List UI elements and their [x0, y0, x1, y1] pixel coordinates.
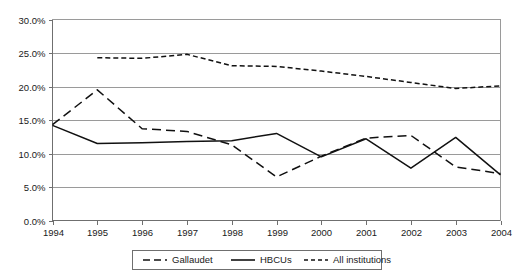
- y-axis-tick-label: 20.0%: [19, 82, 46, 93]
- x-tick-marks: [54, 221, 502, 225]
- chart-canvas: 0.0%5.0%10.0%15.0%20.0%25.0%30.0% 199419…: [0, 0, 513, 278]
- y-axis-tick-label: 5.0%: [24, 182, 46, 193]
- y-axis-tick-label: 25.0%: [19, 48, 46, 59]
- x-axis-tick-label: 2003: [446, 227, 467, 238]
- x-axis-tick-label: 2001: [356, 227, 377, 238]
- x-axis-tick-label: 1999: [267, 227, 288, 238]
- y-axis-tick-label: 10.0%: [19, 149, 46, 160]
- plot-background: [52, 19, 500, 220]
- x-axis-tick-label: 1994: [43, 227, 64, 238]
- legend-label-gallaudet: Gallaudet: [172, 254, 213, 265]
- x-axis-tick-label: 1995: [87, 227, 108, 238]
- x-axis-tick-label: 2000: [311, 227, 332, 238]
- legend-items: GallaudetHBCUsAll institutions: [143, 254, 391, 265]
- y-axis-tick-label: 0.0%: [24, 216, 46, 227]
- x-axis-tick-label: 2004: [491, 227, 512, 238]
- x-axis-tick-label: 1996: [132, 227, 153, 238]
- x-axis-tick-label: 1998: [222, 227, 243, 238]
- legend-label-all-institutions: All institutions: [333, 254, 391, 265]
- x-axis-labels: 1994199519961997199819992000200120022003…: [43, 227, 512, 238]
- chart-legend: GallaudetHBCUsAll institutions: [133, 251, 392, 270]
- x-axis-tick-label: 2002: [401, 227, 422, 238]
- line-chart: 0.0%5.0%10.0%15.0%20.0%25.0%30.0% 199419…: [0, 0, 513, 278]
- legend-label-hbcus: HBCUs: [260, 254, 292, 265]
- y-axis-tick-label: 30.0%: [19, 15, 46, 26]
- y-axis-tick-label: 15.0%: [19, 115, 46, 126]
- y-axis-labels: 0.0%5.0%10.0%15.0%20.0%25.0%30.0%: [19, 15, 46, 227]
- x-axis-tick-label: 1997: [177, 227, 198, 238]
